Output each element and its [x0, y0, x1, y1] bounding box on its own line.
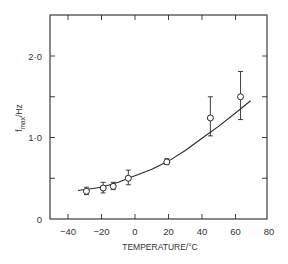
data-point: [238, 71, 244, 119]
plot-border: [50, 15, 267, 219]
x-tick-label: 40: [197, 226, 208, 237]
fit-line: [78, 101, 251, 191]
data-point: [83, 187, 89, 194]
x-tick-label: 20: [163, 226, 174, 237]
data-point: [100, 182, 106, 193]
open-circle-marker: [207, 115, 213, 121]
y-axis-label-sub: max: [19, 116, 26, 129]
open-circle-marker: [164, 159, 170, 165]
axis-ticks: [50, 15, 267, 219]
data-point: [125, 170, 131, 185]
open-circle-marker: [110, 183, 116, 189]
x-tick-label: 0: [132, 226, 137, 237]
y-axis-label: fmax/Hz: [14, 104, 26, 131]
open-circle-marker: [100, 185, 106, 191]
x-tick-label: −20: [93, 226, 109, 237]
x-tick-label: 80: [264, 226, 275, 237]
data-point: [164, 159, 170, 165]
y-tick-label: 2·0: [28, 51, 42, 62]
x-tick-label: −40: [60, 226, 76, 237]
y-tick-label: 0: [37, 214, 42, 225]
data-point: [207, 97, 213, 136]
x-tick-labels: −40−20020406080: [60, 226, 274, 237]
data-points: [83, 71, 243, 194]
plot-frame: [50, 15, 267, 219]
open-circle-marker: [238, 94, 244, 100]
x-tick-label: 60: [230, 226, 241, 237]
y-tick-labels: 01·02·0: [28, 51, 42, 225]
y-axis-label-unit: /Hz: [14, 104, 24, 117]
y-tick-label: 1·0: [28, 132, 42, 143]
open-circle-marker: [125, 175, 131, 181]
x-axis-label: TEMPERATURE/°C: [122, 242, 198, 252]
fit-curve: [78, 101, 251, 191]
chart: −40−20020406080 01·02·0 TEMPERATURE/°C f…: [0, 0, 288, 264]
open-circle-marker: [83, 188, 89, 194]
